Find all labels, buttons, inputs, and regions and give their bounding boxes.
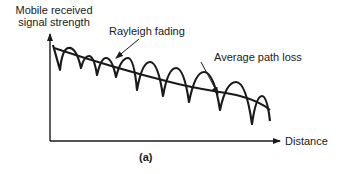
signal-diagram xyxy=(0,0,340,174)
rayleigh-fading-curve xyxy=(53,45,270,124)
rayleigh-pointer-arrow xyxy=(116,39,139,58)
